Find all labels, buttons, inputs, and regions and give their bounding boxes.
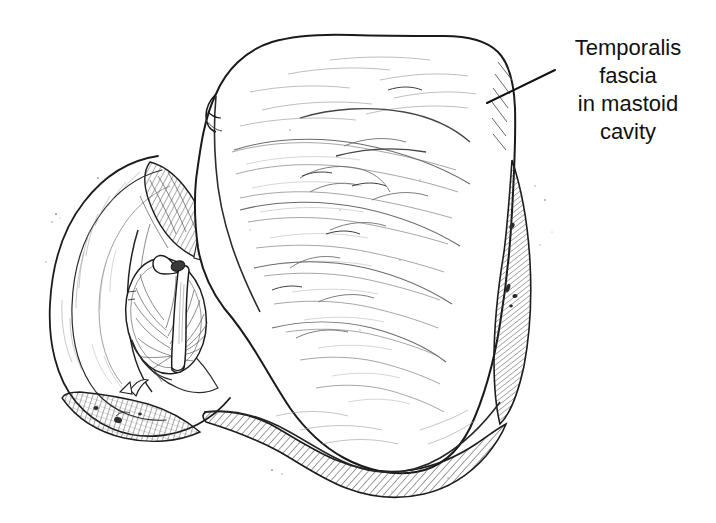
temporalis-fascia-label: Temporalis fascia in mastoid cavity	[540, 34, 716, 146]
medical-illustration-figure: Temporalis fascia in mastoid cavity	[0, 0, 716, 523]
